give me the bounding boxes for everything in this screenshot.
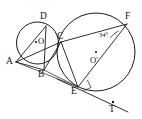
figure-canvas xyxy=(0,0,142,119)
chord-c-f xyxy=(61,24,127,42)
point-label-e: E xyxy=(71,87,77,97)
point-label-d: D xyxy=(40,12,47,22)
center-label-o: O xyxy=(38,37,44,46)
chord-d-b xyxy=(44,26,46,70)
tangent-line-e-t xyxy=(57,79,128,112)
center-dot-o xyxy=(35,41,37,43)
point-label-c: C xyxy=(57,32,63,42)
point-label-t: T xyxy=(109,105,115,115)
point-label-f: F xyxy=(125,12,130,22)
point-label-a: A xyxy=(6,57,13,67)
geometry-figure: A B C D E F T O O' 34° xyxy=(0,0,142,119)
center-dot-o-prime xyxy=(95,51,97,53)
angle-label-34: 34° xyxy=(99,32,108,39)
tangent-point-dot xyxy=(112,101,114,103)
point-label-b: B xyxy=(38,70,44,80)
center-label-o-prime: O' xyxy=(90,56,98,65)
